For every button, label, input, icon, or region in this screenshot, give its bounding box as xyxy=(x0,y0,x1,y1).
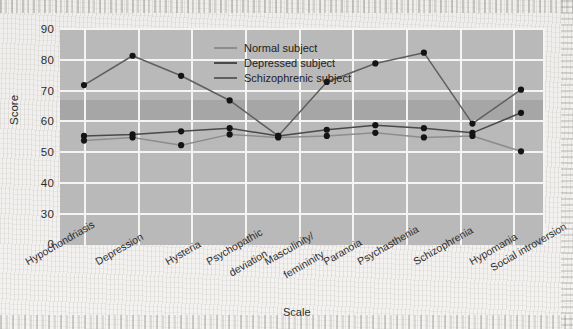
ytick-label-90: 90 xyxy=(28,23,54,35)
normal-range-band xyxy=(60,100,545,120)
gridline-y-90 xyxy=(60,28,545,30)
legend-swatch-depressed xyxy=(214,62,237,64)
gridline-x-3 xyxy=(191,28,193,245)
y-axis-title: Score xyxy=(8,95,20,125)
gridline-x-10 xyxy=(543,28,545,245)
legend-swatch-normal xyxy=(214,47,237,49)
gridline-y-40 xyxy=(60,182,545,184)
mmpi-profile-chart: 90 80 70 60 50 40 30 0 Score Scale Hypoc… xyxy=(0,0,573,329)
gridline-x-6 xyxy=(352,28,354,245)
legend-item-normal: Normal subject xyxy=(214,41,351,55)
x-axis-title: Scale xyxy=(283,306,311,318)
ytick-label-60: 60 xyxy=(28,115,54,127)
ytick-label-50: 50 xyxy=(28,146,54,158)
ytick-label-80: 80 xyxy=(28,54,54,66)
legend-label-schizophrenic: Schizophrenic subject xyxy=(244,72,351,84)
gridline-x-9 xyxy=(513,28,515,245)
legend-label-depressed: Depressed subject xyxy=(244,57,335,69)
ytick-label-40: 40 xyxy=(28,177,54,189)
legend: Normal subject Depressed subject Schizop… xyxy=(214,41,351,86)
gridline-x-2 xyxy=(138,28,140,245)
legend-label-normal: Normal subject xyxy=(244,42,317,54)
gridline-y-70 xyxy=(60,90,545,92)
ytick-label-70: 70 xyxy=(28,85,54,97)
gridline-y-50 xyxy=(60,151,545,153)
gridline-y-30 xyxy=(60,213,545,215)
ytick-label-30: 30 xyxy=(28,208,54,220)
legend-swatch-schizophrenic xyxy=(214,77,237,79)
gridline-x-7 xyxy=(406,28,408,245)
legend-item-schizophrenic: Schizophrenic subject xyxy=(214,71,351,85)
legend-item-depressed: Depressed subject xyxy=(214,56,351,70)
gridline-x-8 xyxy=(460,28,462,245)
gridline-y-60 xyxy=(60,120,545,122)
